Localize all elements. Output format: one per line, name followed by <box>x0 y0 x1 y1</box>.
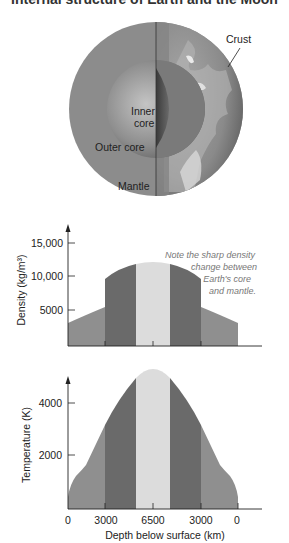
figure-canvas: Crust Inner core Outer core Mantle 15,00… <box>0 0 289 543</box>
density-note-line3: Earth's core <box>203 274 251 284</box>
xtick-6500: 6500 <box>141 514 165 526</box>
temperature-ytick-2000: 2000 <box>39 449 63 461</box>
density-ytick-10000: 10,000 <box>31 270 63 282</box>
density-y-axis-arrow <box>66 224 71 232</box>
crust-leader-line <box>228 48 240 67</box>
density-note-line1: Note the sharp density <box>165 250 256 260</box>
x-axis-label: Depth below surface (km) <box>105 529 225 541</box>
temperature-chart <box>66 369 263 509</box>
label-outer-core: Outer core <box>95 141 145 153</box>
temperature-y-label: Temperature (K) <box>20 407 32 483</box>
density-y-label: Density (kg/m³) <box>15 254 27 325</box>
temperature-ytick-4000: 4000 <box>39 397 63 409</box>
label-mantle: Mantle <box>118 180 150 192</box>
xtick-0-left: 0 <box>65 514 71 526</box>
density-note-line2: change between <box>191 262 257 272</box>
temperature-y-axis-arrow <box>66 376 71 384</box>
density-chart <box>66 224 263 346</box>
xtick-0-right: 0 <box>234 514 240 526</box>
label-crust: Crust <box>226 33 251 45</box>
label-inner-core-line2: core <box>134 117 155 129</box>
density-ytick-15000: 15,000 <box>31 237 63 249</box>
density-note-line4: and mantle. <box>209 286 256 296</box>
density-ytick-5000: 5000 <box>40 304 64 316</box>
xtick-3000-right: 3000 <box>189 514 213 526</box>
xtick-3000-left: 3000 <box>94 514 118 526</box>
label-inner-core-line1: Inner <box>131 105 155 117</box>
earth-cutaway-globe <box>69 20 246 200</box>
